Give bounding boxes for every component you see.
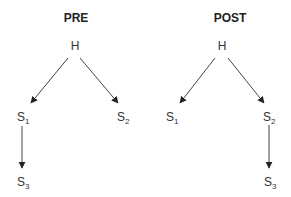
post-edge-h-s1: [180, 58, 215, 103]
tree-diagrams: PRE H S1 S2 S3 POST H S1 S2 S3: [0, 0, 291, 197]
pre-node-h: H: [71, 39, 80, 53]
post-diagram: POST H S1 S2 S3: [166, 11, 277, 191]
pre-title: PRE: [64, 11, 89, 25]
pre-edge-h-s1: [31, 58, 68, 103]
pre-edge-h-s2: [80, 58, 118, 103]
post-title: POST: [214, 11, 247, 25]
pre-diagram: PRE H S1 S2 S3: [17, 11, 130, 191]
post-node-s2: S2: [263, 110, 276, 126]
post-node-s3: S3: [264, 175, 277, 191]
pre-node-s2: S2: [117, 110, 130, 126]
post-node-s1: S1: [166, 110, 179, 126]
pre-node-s1: S1: [17, 110, 30, 126]
pre-node-s3: S3: [17, 175, 30, 191]
post-edge-h-s2: [228, 58, 264, 103]
post-node-h: H: [218, 39, 227, 53]
